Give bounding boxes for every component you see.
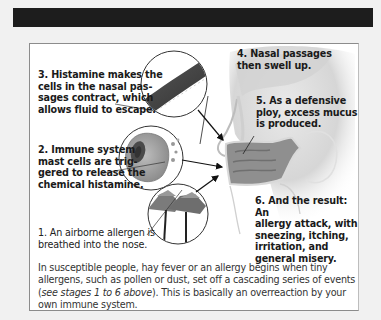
stage-1-line: breathed into the nose. — [38, 239, 155, 251]
stage-6-line: sneezing, itching, — [255, 230, 358, 242]
stage-2-line: gered to release the — [38, 167, 145, 179]
stage-6-label: 6. And the result: An allergy attack, wi… — [255, 195, 358, 264]
stage-6-line: 6. And the result: An — [255, 195, 358, 218]
stage-2-label: 2. Immune system mast cells are trig- ge… — [38, 144, 145, 190]
stage-3-line: cells in the nasal pas- — [38, 81, 162, 93]
stage-5-line: is produced. — [256, 118, 357, 130]
diagram-box: 3. Histamine makes the cells in the nasa… — [29, 43, 359, 311]
stage-3-label: 3. Histamine makes the cells in the nasa… — [38, 69, 162, 115]
stage-5-line: ploy, excess mucus — [256, 107, 357, 119]
header-bar — [13, 8, 373, 27]
caption-italic-reference: see stages 1 to 6 above — [42, 287, 152, 298]
stage-4-label: 4. Nasal passages then swell up. — [237, 48, 332, 71]
stage-6-line: irritation, and — [255, 241, 358, 253]
stage-1-label: 1. An airborne allergen is breathed into… — [38, 227, 155, 250]
stage-1-line: 1. An airborne allergen is — [38, 227, 155, 239]
stage-2-line: mast cells are trig- — [38, 156, 145, 168]
stage-3-line: allows fluid to escape. — [38, 104, 162, 116]
stage-5-label: 5. As a defensive ploy, excess mucus is … — [256, 95, 357, 130]
stage-5-line: 5. As a defensive — [256, 95, 357, 107]
stage-3-line: sages contract, which — [38, 92, 162, 104]
stage-2-line: chemical histamine. — [38, 179, 145, 191]
stage-3-line: 3. Histamine makes the — [38, 69, 162, 81]
caption-text: In susceptible people, hay fever or an a… — [38, 262, 356, 312]
stage-4-line: 4. Nasal passages — [237, 48, 332, 60]
stage-2-line: 2. Immune system — [38, 144, 145, 156]
stage-6-line: allergy attack, with — [255, 218, 358, 230]
stage-4-line: then swell up. — [237, 60, 332, 72]
